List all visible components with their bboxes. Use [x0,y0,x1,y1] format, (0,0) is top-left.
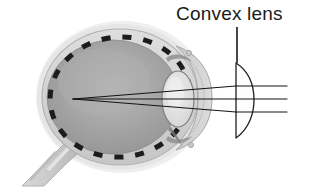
diagram-artwork [0,0,313,196]
eye-convex-lens-diagram: Convex lens [0,0,313,196]
convex-lens-optic [236,63,254,138]
